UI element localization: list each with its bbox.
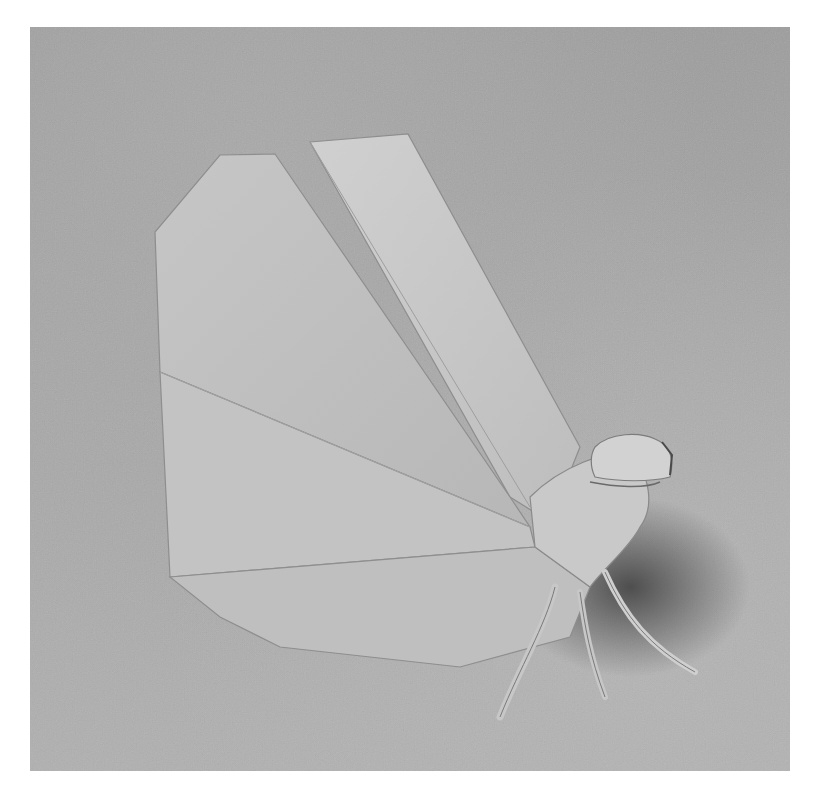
photo bbox=[30, 27, 790, 771]
origami-figure bbox=[30, 27, 790, 771]
head bbox=[591, 434, 672, 480]
